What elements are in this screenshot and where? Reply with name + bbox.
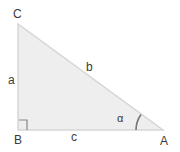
angle-label-alpha: α: [117, 112, 124, 124]
right-triangle-diagram: C B A a b c α: [0, 0, 180, 152]
vertex-label-a: A: [160, 134, 168, 148]
side-label-a: a: [8, 73, 15, 87]
side-label-b: b: [86, 60, 93, 74]
triangle: [18, 24, 163, 130]
side-label-c: c: [71, 130, 77, 144]
vertex-label-b: B: [14, 133, 22, 147]
vertex-label-c: C: [13, 7, 22, 21]
